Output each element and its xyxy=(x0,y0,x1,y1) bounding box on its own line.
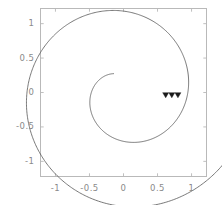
y-tick-label: 0.5 xyxy=(0,54,35,63)
y-tick-label: -1 xyxy=(0,157,35,166)
y-tick-label: 1 xyxy=(0,19,35,28)
direction-arrowheads xyxy=(163,93,181,98)
spiral-plot: -1-0.500.51-1-0.500.51 xyxy=(0,0,222,205)
x-tick-label: 1 xyxy=(172,184,212,193)
plot-canvas xyxy=(0,0,222,205)
plot-background xyxy=(0,0,222,205)
y-tick-label: -0.5 xyxy=(0,122,35,131)
y-tick-label: 0 xyxy=(0,88,35,97)
